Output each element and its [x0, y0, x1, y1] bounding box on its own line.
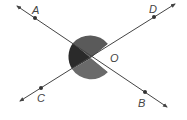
point-A: [33, 16, 37, 20]
diagram-canvas: A B C D O: [0, 0, 187, 120]
label-C: C: [37, 92, 45, 104]
angle-diagram: A B C D O: [0, 0, 187, 120]
label-A: A: [31, 4, 39, 16]
label-B: B: [138, 97, 145, 109]
label-D: D: [149, 3, 157, 15]
label-O: O: [110, 52, 119, 64]
point-B: [143, 90, 147, 94]
point-D: [152, 15, 156, 19]
line-CD: [20, 4, 175, 101]
point-C: [39, 86, 43, 90]
